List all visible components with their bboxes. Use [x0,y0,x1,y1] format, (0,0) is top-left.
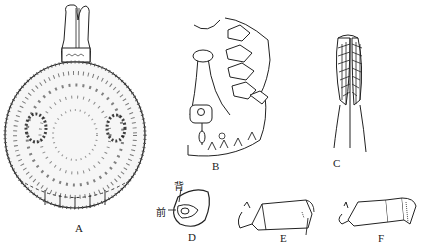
tick-dorsal-illustration [0,0,150,250]
annotation-anterior: 前 [156,204,166,219]
panel-label-a: A [75,222,83,234]
panel-label-f: F [378,232,384,244]
panel-label-e: E [280,232,287,244]
panel-e: E [230,190,330,250]
annotation-dorsal: 背 [174,178,184,193]
panel-label-d: D [188,231,196,243]
panel-label-b: B [212,160,219,172]
tick-ventral-illustration [150,0,290,180]
panel-f: F [330,190,430,250]
panel-b: B [150,0,290,180]
panel-label-c: C [333,157,340,169]
panel-a: A [0,0,150,250]
panel-c: C [280,0,430,180]
panel-d: 背 前 D [150,180,230,250]
hypostome-illustration [280,0,430,180]
